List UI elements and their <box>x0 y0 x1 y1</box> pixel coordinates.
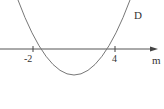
curve-label: D <box>134 9 142 21</box>
root-label-neg2: -2 <box>24 53 32 64</box>
axis-arrow-icon <box>150 47 158 52</box>
axis-label: m <box>152 54 161 66</box>
parabola-diagram: D -2 4 m <box>0 0 164 109</box>
root-label-4: 4 <box>112 53 117 64</box>
